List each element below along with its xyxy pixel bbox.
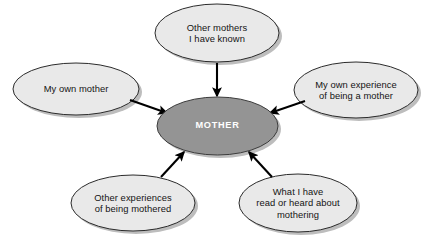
arrow-other-experiences-to-center [161,152,184,177]
arrow-my-own-experience-to-center [270,101,305,113]
concept-map-diagram: Other mothers I have known My own mother… [0,0,429,244]
arrow-read-or-heard-to-center [249,152,272,177]
ellipse-my-own-experience[interactable] [294,62,418,118]
ellipse-my-own-mother[interactable] [13,63,139,115]
arrow-my-own-mother-to-center [130,100,167,113]
ellipse-other-mothers-known[interactable] [155,4,279,62]
diagram-canvas [0,0,429,244]
ellipse-other-experiences[interactable] [71,175,195,231]
ellipse-center-mother[interactable] [157,97,278,155]
ellipse-read-or-heard[interactable] [239,174,357,232]
